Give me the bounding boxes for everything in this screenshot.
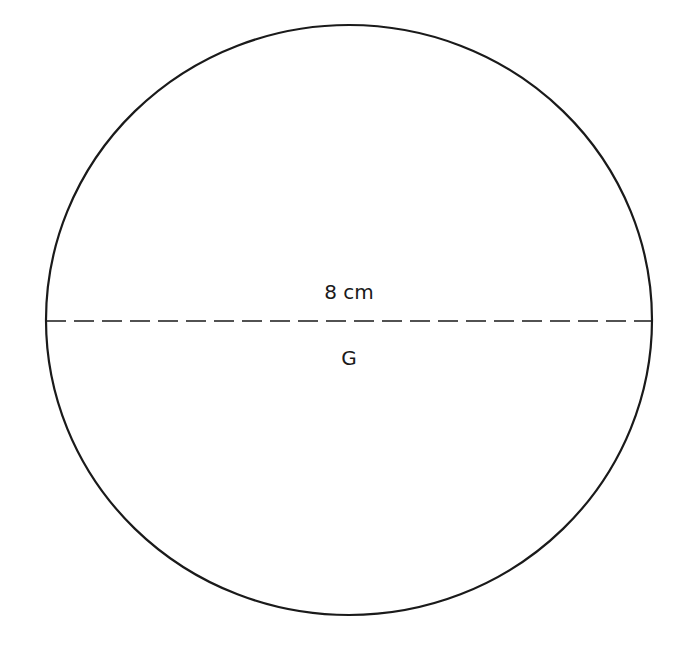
diameter-label: 8 cm [324, 280, 374, 304]
shape-label: G [341, 346, 357, 370]
circle-diagram [0, 0, 688, 655]
circle-outline [46, 25, 652, 615]
